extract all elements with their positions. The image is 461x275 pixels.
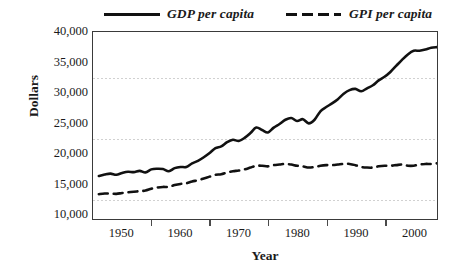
series-line-gpi: [99, 163, 437, 194]
legend-label-gdp: GDP per capita: [167, 6, 254, 22]
series-container: [93, 32, 437, 219]
solid-line-swatch-icon: [104, 8, 160, 20]
x-axis-tick-label: 2000: [402, 226, 427, 241]
x-axis-tick-labels: 195019601970198019902000: [92, 226, 438, 244]
x-axis-tick-label: 1980: [285, 226, 310, 241]
legend-entry-gdp: GDP per capita: [104, 6, 254, 22]
gdp-gpi-per-capita-chart: GDP per capita GPI per capita Dollars 40…: [0, 0, 461, 275]
y-axis-tick-label: 15,000: [54, 176, 88, 191]
x-axis-tick-label: 1970: [226, 226, 251, 241]
x-axis-tick-label: 1990: [343, 226, 368, 241]
x-axis-tick-label: 1960: [167, 226, 192, 241]
y-axis-tick-label: 10,000: [54, 207, 88, 222]
x-axis-tick-label: 1950: [109, 226, 134, 241]
y-axis-tick-label: 25,000: [54, 115, 88, 130]
y-axis-tick-label: 20,000: [54, 146, 88, 161]
series-line-gdp: [99, 47, 437, 176]
x-axis-title: Year: [92, 248, 438, 264]
y-axis-tick-label: 35,000: [54, 54, 88, 69]
legend-entry-gpi: GPI per capita: [286, 6, 432, 22]
y-axis-tick-label: 40,000: [54, 24, 88, 39]
legend-label-gpi: GPI per capita: [349, 6, 432, 22]
y-axis-tick-label: 30,000: [54, 85, 88, 100]
dashed-line-swatch-icon: [286, 8, 342, 20]
plot-area: [92, 31, 438, 220]
y-axis-tick-labels: 40,00035,00030,00025,00020,00015,00010,0…: [34, 0, 88, 275]
